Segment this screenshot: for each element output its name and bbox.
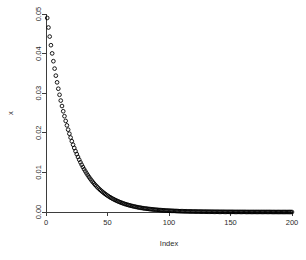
data-point (69, 136, 73, 140)
y-tick-label: 0.02 (34, 125, 43, 140)
x-axis-title: Index (160, 239, 179, 248)
data-point (52, 59, 56, 63)
y-tick-label: 0.00 (34, 205, 43, 220)
y-tick-label: 0.05 (34, 7, 43, 22)
x-tick-label: 200 (286, 218, 299, 227)
data-point (53, 67, 57, 71)
x-tick-label: 150 (224, 218, 237, 227)
data-point (61, 109, 65, 113)
y-tick-label: 0.04 (34, 46, 43, 61)
axes-group (42, 14, 292, 216)
data-point (66, 128, 70, 132)
data-points-group (45, 16, 293, 214)
y-tick-label: 0.03 (34, 86, 43, 101)
data-point (68, 132, 72, 136)
data-point (54, 74, 58, 78)
x-tick-label: 50 (103, 218, 111, 227)
x-tick-label: 100 (163, 218, 176, 227)
data-point (55, 81, 59, 85)
data-point (48, 35, 52, 39)
data-point (49, 43, 53, 47)
y-axis-title: x (6, 111, 15, 115)
data-point (60, 104, 64, 108)
data-point (50, 52, 54, 56)
data-point (64, 119, 68, 123)
data-point (65, 124, 69, 128)
y-tick-label: 0.01 (34, 165, 43, 180)
data-point (56, 87, 60, 91)
data-point (59, 99, 63, 103)
data-point (58, 93, 62, 97)
scatter-plot-figure: 0501001502000.000.010.020.030.040.05Inde… (0, 0, 306, 260)
data-point (47, 26, 51, 30)
data-point (63, 114, 67, 118)
x-tick-label: 0 (44, 218, 48, 227)
plot-canvas: 0501001502000.000.010.020.030.040.05Inde… (0, 0, 306, 260)
